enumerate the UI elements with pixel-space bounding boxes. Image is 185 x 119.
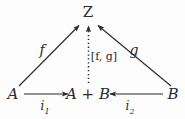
node-label-a: A: [8, 87, 19, 102]
node-label-a-plus-b: A + B: [66, 87, 110, 102]
edge-label-i2: i2: [126, 100, 135, 115]
commutative-diagram: Z A A + B B f g [f, g] i1 i2: [0, 0, 185, 119]
edge-label-i1: i1: [41, 100, 50, 115]
edge-label-g: g: [130, 43, 139, 57]
edge-label-mediating-text: [f, g]: [91, 50, 117, 63]
edge-label-i2-subscript: 2: [129, 107, 134, 116]
node-label-z: Z: [83, 5, 93, 20]
edge-label-mediating: [f, g]: [91, 51, 117, 62]
edge-f-line: [19, 26, 79, 87]
edge-label-i1-subscript: 1: [44, 107, 49, 116]
edge-label-f: f: [39, 43, 44, 57]
node-label-b: B: [167, 87, 178, 102]
